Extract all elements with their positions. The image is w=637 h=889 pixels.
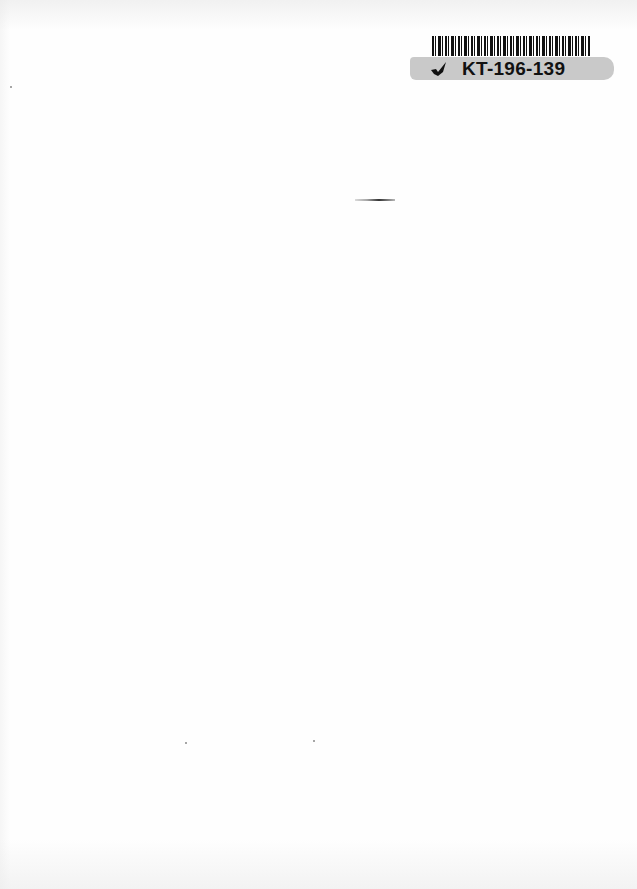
barcode-number: KT-196-139 xyxy=(462,58,565,80)
scan-mark xyxy=(355,199,395,201)
scan-speck xyxy=(185,742,187,744)
scan-speck xyxy=(10,86,12,88)
check-mark-icon xyxy=(430,61,448,77)
barcode-label: KT-196-139 xyxy=(410,30,614,85)
scan-speck xyxy=(313,740,315,742)
barcode xyxy=(432,36,590,56)
scanned-page: KT-196-139 xyxy=(0,0,637,889)
label-strip: KT-196-139 xyxy=(410,57,614,80)
